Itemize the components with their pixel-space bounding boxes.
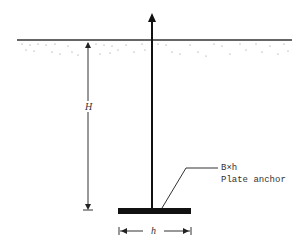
depth-label: H <box>85 101 92 112</box>
arrow-left-icon <box>121 228 127 234</box>
soil-texture <box>21 43 288 56</box>
arrow-right-icon <box>183 228 189 234</box>
plate-name-label: Plate anchor <box>221 175 286 186</box>
width-label: h <box>151 225 156 236</box>
anchor-plate <box>118 208 191 214</box>
anchor-diagram <box>0 0 307 248</box>
arrow-down-icon <box>85 204 91 210</box>
pullout-arrow-icon <box>148 13 156 22</box>
leader-line <box>162 168 218 208</box>
plate-dims-label: B×h <box>221 163 237 174</box>
arrow-up-icon <box>85 42 91 48</box>
